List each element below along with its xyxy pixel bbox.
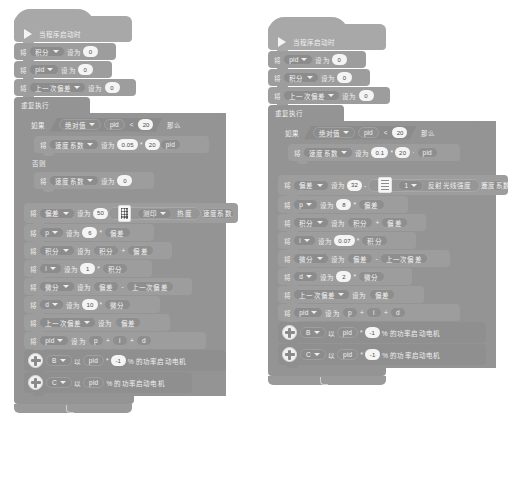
variable-dropdown[interactable]: 上一次偏差 [283,90,340,101]
variable-dropdown[interactable]: 速度系数 [303,147,353,158]
variable-reporter[interactable]: pid [358,127,379,138]
set-deviation-block[interactable]: 将 偏差 设为 32 - 1 反射光线强度 * 速度系数 [278,175,508,195]
variable-reporter[interactable]: 微分 [104,299,130,310]
variable-reporter[interactable]: 偏差 [93,281,119,292]
variable-reporter[interactable]: pid [337,327,358,338]
set-variable-block[interactable]: 将 上一次偏差 设为 0 [14,79,136,96]
forever-block[interactable]: 重复执行 如果 绝对值 pid < 20 那么 [268,105,496,376]
variable-dropdown[interactable]: d [39,299,64,310]
variable-reporter[interactable]: 上一次偏差 [126,281,174,292]
variable-reporter[interactable]: pid [83,355,104,366]
set-variable-block[interactable]: 将 pid 设为 0 [14,61,112,78]
variable-dropdown[interactable]: d [293,271,318,282]
motor-port-dropdown[interactable]: C [300,349,326,360]
abs-function-dropdown[interactable]: 绝对值 [313,127,355,138]
set-variable-block[interactable]: 将 微分 设为 偏差 - 上一次偏差 [24,278,192,295]
value-input[interactable]: 0 [359,90,374,101]
variable-reporter[interactable]: 积分 [361,235,387,246]
set-variable-block[interactable]: 将 积分 设为 积分 + 偏差 [24,242,172,259]
hat-block-program-start-left[interactable]: 当程序启动时 [14,16,132,42]
program-stack-left[interactable]: 当程序启动时 将 积分 设为 0 将 pid 设为 0 将 上一次偏差 设为 0… [14,16,226,413]
value-input[interactable]: 0 [332,54,347,65]
variable-reporter[interactable]: 偏差 [347,253,373,264]
set-variable-block[interactable]: 将 上一次偏差 设为 0 [268,87,390,104]
set-pid-block[interactable]: 将 pid 设为 p + i + d [278,304,460,321]
variable-dropdown[interactable]: 积分 [293,217,328,228]
set-variable-block[interactable]: 将 微分 设为 偏差 - 上一次偏差 [278,250,450,267]
motor-start-block[interactable]: B 以 pid * -1 % 的功率启动电机 [278,322,486,343]
motor-start-block[interactable]: B 以 pid * -1 % 的功率启动电机 [24,350,226,371]
variable-reporter[interactable]: pid [160,139,181,150]
operand-input[interactable]: 1 [80,263,95,274]
hat-block-program-start-right[interactable]: 当程序启动时 [268,24,386,50]
set-pid-block[interactable]: 将 pid 设为 p + i + d [24,332,206,349]
variable-dropdown[interactable]: pid [39,335,69,346]
if-block[interactable]: 如果 绝对值 pid < 20 那么 将 [278,123,496,172]
operand-input[interactable]: 2 [336,271,351,282]
variable-dropdown[interactable]: 上一次偏差 [39,317,96,328]
program-stack-right[interactable]: 当程序启动时 将 pid 设为 0 将 积分 设为 0 将 上一次偏差 设为 0… [268,24,496,385]
variable-reporter[interactable]: pid [417,147,438,158]
forever-header[interactable]: 重复执行 [268,105,344,121]
variable-reporter[interactable]: pid [104,119,125,130]
variable-dropdown[interactable]: 积分 [39,245,74,256]
motor-port-dropdown[interactable]: B [46,355,72,366]
value-input[interactable]: 0 [83,46,98,57]
variable-dropdown[interactable]: i [39,263,62,274]
value-input[interactable]: 0 [105,82,120,93]
variable-dropdown[interactable]: pid [293,307,323,318]
set-variable-block[interactable]: 将 d 设为 2 * 微分 [278,268,412,285]
set-variable-block[interactable]: 将 p 设为 6 * 偏差 [24,224,154,241]
operand-input[interactable]: 20 [395,147,410,158]
variable-reporter[interactable]: 上一次偏差 [380,253,428,264]
set-deviation-block[interactable]: 将 偏差 设为 50 测印 热度 速度系数 [24,203,238,223]
variable-reporter[interactable]: 偏差 [381,217,407,228]
set-variable-block[interactable]: 将 积分 设为 0 [268,69,370,86]
variable-dropdown[interactable]: 速度系数 [49,175,99,186]
factor-input[interactable]: -1 [111,355,126,366]
variable-dropdown[interactable]: 偏差 [293,180,328,191]
operand-input[interactable]: 0.05 [117,139,137,150]
forever-block[interactable]: 重复执行 如果 绝对值 pid < 20 那么 [14,97,226,404]
variable-dropdown[interactable]: 积分 [29,46,64,57]
value-input[interactable]: 0 [337,72,352,83]
set-variable-block[interactable]: 将 i 设为 0.07 * 积分 [278,232,416,249]
set-variable-block[interactable]: 将 上一次偏差 设为 偏差 [278,286,424,303]
color-sensor-reporter[interactable]: 1 反射光线强度 [368,179,480,192]
motor-start-block[interactable]: C 以 pid % 的功率启动电机 [24,372,192,393]
sensor-mode-dropdown[interactable]: 测印 [137,208,172,219]
value-input[interactable]: 0 [78,64,93,75]
variable-reporter[interactable]: i [112,335,128,346]
variable-dropdown[interactable]: 上一次偏差 [29,82,86,93]
value-input[interactable]: 0 [117,175,132,186]
variable-reporter[interactable]: 积分 [102,263,128,274]
variable-dropdown[interactable]: 微分 [39,281,74,292]
operand-input[interactable]: 6 [82,227,97,238]
variable-reporter[interactable]: 速度系数 [487,180,504,191]
variable-reporter[interactable]: pid [337,349,358,360]
threshold-input[interactable]: 20 [392,127,407,138]
variable-reporter[interactable]: 微分 [358,271,384,282]
variable-dropdown[interactable]: 积分 [283,72,318,83]
variable-dropdown[interactable]: p [39,227,64,238]
set-variable-block[interactable]: 将 d 设为 10 * 微分 [24,296,160,313]
set-variable-block[interactable]: 将 积分 设为 积分 + 偏差 [278,214,426,231]
factor-input[interactable]: -1 [365,327,380,338]
operand-input[interactable]: 0.1 [371,147,388,158]
variable-dropdown[interactable]: 偏差 [39,208,74,219]
variable-dropdown[interactable]: pid [29,64,59,75]
variable-reporter[interactable]: i [366,307,382,318]
condition-hexagon[interactable]: 绝对值 pid < 20 [50,118,162,132]
set-variable-block[interactable]: 将 速度系数 设为 0 [34,172,154,189]
variable-reporter[interactable]: p [88,335,104,346]
value-input[interactable]: 32 [347,180,362,191]
variable-reporter[interactable]: pid [83,377,104,388]
operand-input[interactable]: 0.07 [334,235,354,246]
variable-reporter[interactable]: p [342,307,358,318]
set-variable-block[interactable]: 将 积分 设为 0 [14,43,116,60]
variable-reporter[interactable]: 积分 [93,245,119,256]
set-variable-block[interactable]: 将 i 设为 1 * 积分 [24,260,152,277]
variable-reporter[interactable]: 偏差 [369,289,395,300]
value-input[interactable]: 50 [93,208,108,219]
variable-reporter[interactable]: 积分 [347,217,373,228]
